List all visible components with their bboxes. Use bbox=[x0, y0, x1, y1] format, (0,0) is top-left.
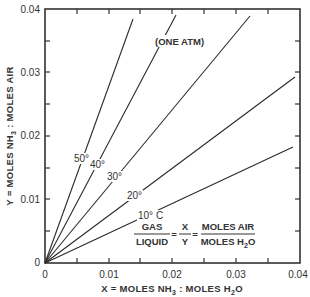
line-10 bbox=[45, 147, 293, 263]
y-tick-2: 0.02 bbox=[21, 130, 41, 141]
y-axis-label: Y = MOLES NH3 : MOLES AIR bbox=[4, 66, 17, 205]
plot-frame bbox=[45, 9, 300, 263]
x-tick-3: 0.03 bbox=[226, 269, 246, 280]
equation: GAS LIQUID = X Y = MOLES AIR MOLES H2O bbox=[134, 221, 255, 249]
x-tick-2: 0.02 bbox=[162, 269, 182, 280]
label-50: 50° bbox=[74, 153, 89, 164]
eq-gas: GAS bbox=[142, 221, 163, 232]
label-30: 30° bbox=[107, 171, 122, 182]
x-tick-0: 0 bbox=[42, 269, 48, 280]
line-50 bbox=[45, 19, 133, 263]
x-tick-1: 0.01 bbox=[99, 269, 119, 280]
line-20 bbox=[45, 77, 295, 263]
chart: 0 0.01 0.02 0.03 0.04 0 0.01 0.02 0.03 0… bbox=[0, 0, 310, 297]
pressure-annotation: (ONE ATM) bbox=[155, 36, 204, 47]
y-tick-4: 0.04 bbox=[21, 4, 41, 15]
label-40: 40° bbox=[90, 159, 105, 170]
eq-equals-2: = bbox=[192, 229, 198, 240]
eq-moles-h2o: MOLES H2O bbox=[201, 236, 256, 249]
label-10: 10° C bbox=[138, 210, 163, 221]
eq-equals-1: = bbox=[171, 229, 177, 240]
y-ticks bbox=[45, 41, 300, 231]
data-lines bbox=[45, 15, 295, 263]
eq-y: Y bbox=[182, 236, 189, 247]
eq-x: X bbox=[182, 221, 189, 232]
label-20: 20° bbox=[127, 190, 142, 201]
eq-liquid: LIQUID bbox=[136, 236, 168, 247]
y-tick-0: 0 bbox=[34, 257, 40, 268]
x-axis-label: X = MOLES NH3 : MOLES H2O bbox=[101, 283, 243, 296]
x-tick-4: 0.04 bbox=[288, 269, 308, 280]
y-tick-1: 0.01 bbox=[21, 194, 41, 205]
y-tick-3: 0.03 bbox=[21, 67, 41, 78]
eq-moles-air: MOLES AIR bbox=[202, 221, 255, 232]
